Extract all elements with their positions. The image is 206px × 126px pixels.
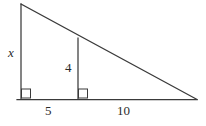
- triangle-diagram-svg: [0, 0, 206, 126]
- label-base-right: 10: [117, 104, 130, 117]
- triangle-outline: [17, 4, 197, 100]
- geometry-figure: x 4 5 10: [0, 0, 206, 126]
- label-inner-segment: 4: [65, 61, 72, 74]
- right-angle-marker-left: [22, 89, 31, 98]
- label-base-left: 5: [45, 104, 52, 117]
- hypotenuse-line: [21, 4, 197, 100]
- label-x: x: [8, 46, 14, 59]
- right-angle-marker-inner: [79, 89, 88, 98]
